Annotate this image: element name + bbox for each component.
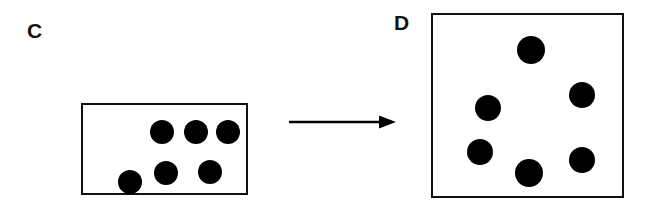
particle — [154, 161, 178, 185]
panel-label-c: C — [27, 20, 42, 41]
particle — [517, 36, 545, 64]
panel-d-container — [431, 13, 624, 198]
particle — [515, 159, 543, 187]
particle — [198, 160, 222, 184]
particle — [569, 82, 595, 108]
panel-c-container — [81, 103, 248, 195]
transition-arrow — [289, 112, 397, 132]
arrow-icon — [289, 112, 397, 132]
particle — [184, 120, 208, 144]
particle — [118, 170, 142, 194]
figure-canvas: C D — [0, 0, 655, 210]
particle — [467, 139, 493, 165]
particle — [569, 147, 595, 173]
particle — [150, 120, 174, 144]
particle — [475, 95, 501, 121]
particle — [216, 120, 240, 144]
panel-label-d: D — [394, 12, 409, 33]
